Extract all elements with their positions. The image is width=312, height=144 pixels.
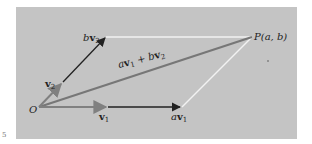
- sum-vector-arrow: [39, 37, 252, 107]
- bv2-label-sub: 2: [95, 37, 99, 45]
- av1-label-sub: 1: [183, 116, 187, 124]
- v2-label-sub: 2: [51, 83, 55, 91]
- page-marker: 5: [2, 132, 6, 139]
- av1-label: av1: [171, 112, 187, 124]
- point-p-label: P(a, b): [254, 32, 287, 42]
- origin-label: O: [29, 105, 37, 115]
- vector-diagram: [0, 0, 312, 144]
- v2-label: v2: [45, 79, 55, 91]
- v1-label-sub: 1: [105, 116, 109, 124]
- stray-dot: [267, 60, 269, 62]
- bv2-label: bv2: [83, 33, 100, 45]
- v1-label: v1: [99, 112, 109, 124]
